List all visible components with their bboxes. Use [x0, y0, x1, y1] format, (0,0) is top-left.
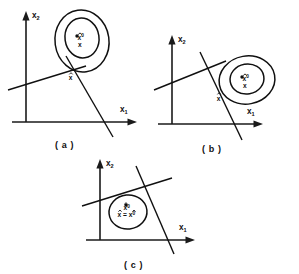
panel-b-x-axis: [158, 120, 263, 127]
figure-canvas: x2 x1 x0 x x (: [0, 0, 299, 274]
panel-a-caption: ( a ): [55, 140, 74, 150]
panel-b-constraint-line-2: [200, 52, 242, 140]
panel-a: x2 x1 x0 x x (: [8, 4, 153, 152]
panel-c-drawing: x2 x1 x0 x = x0 ( c ): [78, 148, 222, 272]
panel-b-contour-inner: [228, 61, 267, 96]
panel-b-solution-label: x: [217, 93, 221, 102]
panel-c-y-axis-label: x2: [106, 159, 113, 169]
panel-b-drawing: x2 x1 x0 x x ( b ): [150, 28, 296, 156]
panel-a-constraint-line-2: [66, 56, 113, 137]
svg-text:x0: x0: [124, 204, 131, 212]
panel-c-x-axis: [86, 236, 195, 243]
panel-b-center-label: x0 x: [243, 74, 250, 89]
svg-text:x = x0: x = x0: [118, 211, 136, 219]
panel-a-solution-label: x: [69, 73, 73, 82]
panel-b: x2 x1 x0 x x ( b ): [150, 28, 296, 156]
svg-text:x: x: [78, 41, 82, 48]
panel-b-y-axis-label: x2: [178, 35, 185, 45]
panel-c-caption: ( c ): [124, 260, 143, 270]
panel-a-y-axis-label: x2: [32, 11, 39, 21]
panel-c-constraint-line-1: [82, 178, 172, 206]
panel-c-center-label: x0 x = x0: [118, 203, 136, 219]
panel-a-y-axis: [22, 11, 29, 122]
panel-c: x2 x1 x0 x = x0 ( c ): [78, 148, 222, 272]
svg-text:x: x: [217, 95, 221, 102]
panel-b-y-axis: [168, 35, 175, 124]
panel-a-drawing: x2 x1 x0 x x (: [8, 4, 153, 152]
panel-b-constraint-line-1: [154, 61, 226, 90]
svg-text:x: x: [243, 82, 247, 89]
svg-text:x0: x0: [78, 33, 85, 41]
svg-text:x0: x0: [243, 74, 250, 82]
panel-b-x-axis-label: x1: [247, 107, 254, 117]
panel-c-equation: x = x0: [118, 210, 136, 218]
panel-a-center-label: x0 x: [78, 33, 85, 48]
panel-a-contour-outer: [51, 7, 113, 76]
panel-c-x-axis-label: x1: [179, 223, 186, 233]
panel-a-x-axis: [12, 118, 137, 125]
panel-a-contour-inner: [62, 16, 101, 60]
svg-text:x: x: [69, 74, 73, 81]
panel-a-x-axis-label: x1: [120, 105, 127, 115]
panel-b-contour-outer: [215, 52, 278, 109]
